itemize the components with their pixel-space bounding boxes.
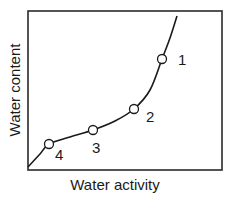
marker-point-1 bbox=[158, 55, 167, 64]
x-axis-label: Water activity bbox=[70, 176, 160, 193]
marker-label-3: 3 bbox=[92, 139, 100, 156]
marker-point-4 bbox=[45, 140, 54, 149]
marker-label-2: 2 bbox=[146, 108, 154, 125]
marker-label-1: 1 bbox=[178, 51, 186, 68]
marker-point-2 bbox=[130, 105, 139, 114]
marker-point-3 bbox=[89, 126, 98, 135]
y-axis-label: Water content bbox=[6, 43, 23, 137]
marker-label-4: 4 bbox=[55, 146, 63, 163]
marker-group: 1234 bbox=[45, 51, 187, 163]
sorption-isotherm-chart: 1234 Water content Water activity bbox=[0, 0, 234, 197]
